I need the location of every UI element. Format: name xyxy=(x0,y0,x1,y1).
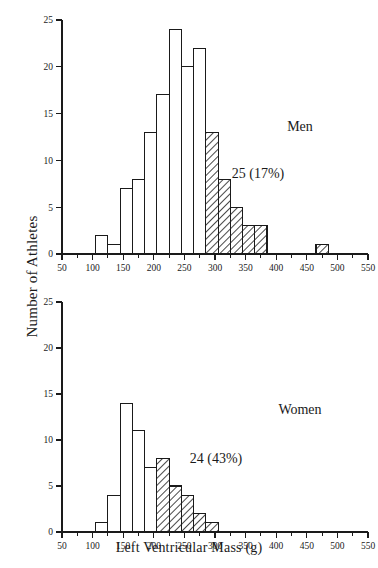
histogram-bar-shaded xyxy=(206,132,218,254)
histogram-bar-open xyxy=(108,245,120,254)
y-tick-label: 25 xyxy=(44,15,54,25)
histogram-bar-open xyxy=(96,235,108,254)
histogram-bar-open xyxy=(120,188,132,254)
y-tick-label: 5 xyxy=(48,203,53,213)
histogram-bar-open xyxy=(181,67,193,254)
y-tick-label: 10 xyxy=(44,435,54,445)
y-tick-label: 0 xyxy=(48,527,53,537)
y-tick-label: 5 xyxy=(48,481,53,491)
y-axis-ticks: 0510152025 xyxy=(44,15,63,259)
y-tick-label: 20 xyxy=(44,343,54,353)
histogram-bar-open xyxy=(157,95,169,254)
x-tick-label: 200 xyxy=(147,263,162,273)
x-tick-label: 300 xyxy=(208,263,223,273)
y-tick-label: 15 xyxy=(44,389,54,399)
x-axis-ticks: 50100150200250300350400450500550 xyxy=(57,254,375,273)
panel-women: 5010015020025030035040045050055005101520… xyxy=(0,288,378,568)
group-label-women: Women xyxy=(278,402,321,417)
histogram-bar-open xyxy=(132,179,144,254)
x-tick-label: 100 xyxy=(85,263,100,273)
figure-histogram-left-ventricular-mass: Number of Athletes 501001502002503003504… xyxy=(0,0,378,568)
x-tick-label: 50 xyxy=(57,263,67,273)
x-tick-label: 250 xyxy=(177,263,192,273)
y-tick-label: 15 xyxy=(44,109,54,119)
y-tick-label: 0 xyxy=(48,249,53,259)
histogram-bar-shaded xyxy=(157,458,169,532)
y-axis-ticks: 0510152025 xyxy=(44,297,63,537)
histogram-bar-shaded xyxy=(206,523,218,532)
histogram-bar-open xyxy=(96,523,108,532)
histogram-bar-shaded xyxy=(230,207,242,254)
histogram-bar-shaded xyxy=(169,486,181,532)
y-tick-label: 20 xyxy=(44,62,54,72)
x-tick-label: 500 xyxy=(330,263,345,273)
bars-group xyxy=(96,29,329,254)
x-axis-title: Left Ventricular Mass (g) xyxy=(0,540,378,556)
histogram-bar-open xyxy=(169,29,181,254)
histogram-bar-shaded xyxy=(316,245,328,254)
histogram-bar-open xyxy=(145,132,157,254)
histogram-bar-open xyxy=(132,431,144,532)
plot-men: 5010015020025030035040045050055005101520… xyxy=(0,6,378,290)
histogram-bar-shaded xyxy=(218,179,230,254)
histogram-bar-open xyxy=(194,48,206,254)
bars-group xyxy=(96,403,218,532)
y-tick-label: 25 xyxy=(44,297,54,307)
x-tick-label: 350 xyxy=(238,263,253,273)
group-label-men: Men xyxy=(287,119,313,134)
plot-women: 5010015020025030035040045050055005101520… xyxy=(0,288,378,568)
x-tick-label: 550 xyxy=(361,263,376,273)
histogram-bar-open xyxy=(145,468,157,532)
panel-men: 5010015020025030035040045050055005101520… xyxy=(0,6,378,290)
x-tick-label: 400 xyxy=(269,263,284,273)
annotation-women: 24 (43%) xyxy=(190,451,243,467)
annotation-men: 25 (17%) xyxy=(232,166,285,182)
x-tick-label: 450 xyxy=(300,263,315,273)
histogram-bar-shaded xyxy=(255,226,267,254)
histogram-bar-shaded xyxy=(194,514,206,532)
histogram-bar-shaded xyxy=(243,226,255,254)
histogram-bar-shaded xyxy=(181,495,193,532)
x-tick-label: 150 xyxy=(116,263,131,273)
histogram-bar-open xyxy=(108,495,120,532)
histogram-bar-open xyxy=(120,403,132,532)
y-tick-label: 10 xyxy=(44,156,54,166)
